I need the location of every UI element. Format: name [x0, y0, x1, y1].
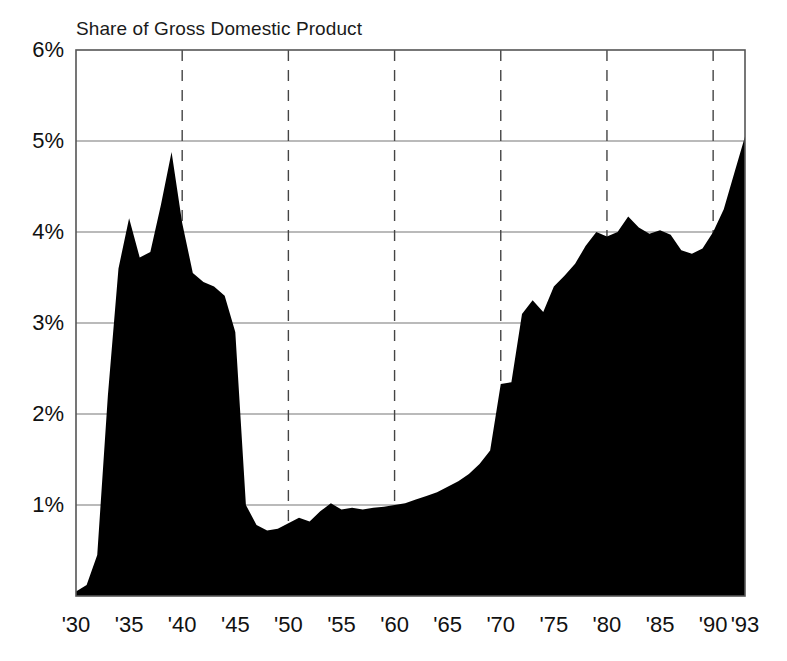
x-tick-label-1985: '85: [646, 612, 675, 638]
x-tick-label-1960: '60: [380, 612, 409, 638]
area-series-share-of-gdp: [76, 136, 745, 596]
y-tick-label-5pct: 5%: [0, 128, 64, 154]
x-tick-label-1993: '93: [731, 612, 760, 638]
x-tick-label-1950: '50: [274, 612, 303, 638]
x-tick-label-1970: '70: [486, 612, 515, 638]
x-tick-label-1940: '40: [168, 612, 197, 638]
chart-plot-area: [0, 0, 787, 661]
x-tick-label-1980: '80: [593, 612, 622, 638]
y-tick-label-2pct: 2%: [0, 401, 64, 427]
x-tick-label-1930: '30: [62, 612, 91, 638]
x-tick-label-1965: '65: [433, 612, 462, 638]
y-tick-label-4pct: 4%: [0, 219, 64, 245]
x-tick-label-1990: '90: [699, 612, 728, 638]
x-tick-label-1935: '35: [115, 612, 144, 638]
y-tick-label-3pct: 3%: [0, 310, 64, 336]
x-tick-label-1945: '45: [221, 612, 250, 638]
x-tick-label-1955: '55: [327, 612, 356, 638]
y-tick-label-6pct: 6%: [0, 37, 64, 63]
x-tick-label-1975: '75: [540, 612, 569, 638]
chart-figure: Share of Gross Domestic Product 1%2%3%4%…: [0, 0, 787, 661]
y-tick-label-1pct: 1%: [0, 492, 64, 518]
